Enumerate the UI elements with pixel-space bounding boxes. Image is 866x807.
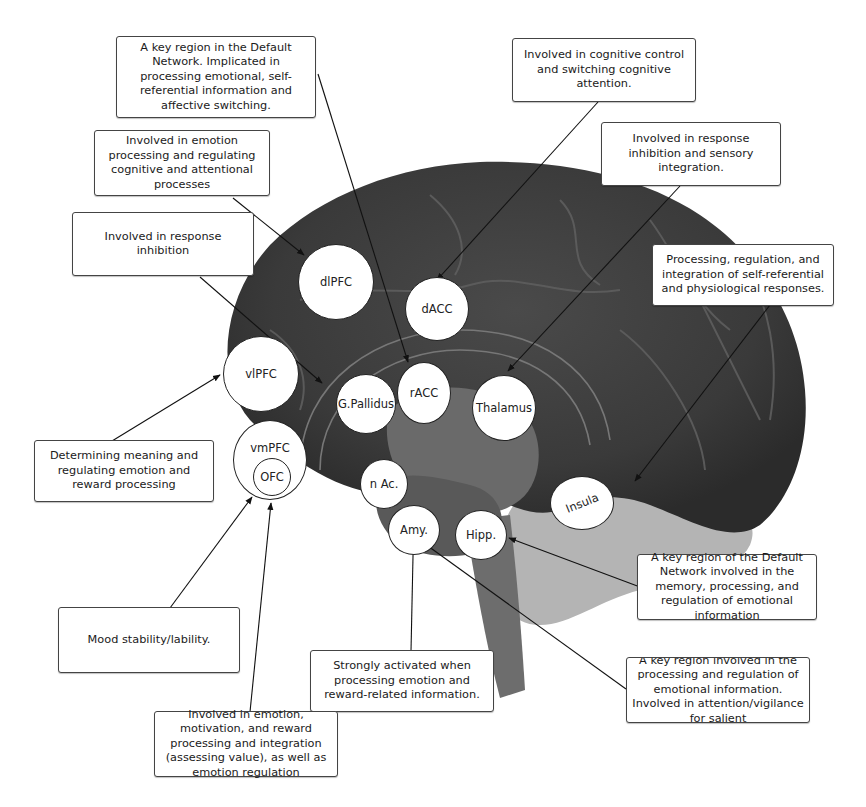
annotation-insula: Processing, regulation, and integration … <box>652 244 834 306</box>
region-dacc[interactable]: dACC <box>405 277 469 341</box>
annotation-text: A key region of the Default Network invo… <box>643 551 811 624</box>
region-label: dlPFC <box>320 275 352 289</box>
annotation-text: Determining meaning and regulating emoti… <box>40 449 208 493</box>
region-label: rACC <box>410 386 438 400</box>
annotation-text: Involved in response inhibition and sens… <box>607 132 775 176</box>
region-label: vmPFC <box>250 441 290 455</box>
region-label: vlPFC <box>245 367 277 381</box>
annotation-racc: A key region in the Default Network. Imp… <box>116 36 316 118</box>
annotation-nac: Strongly activated when processing emoti… <box>310 650 494 712</box>
region-label: n Ac. <box>370 477 399 491</box>
annotation-text: A key region involved in the processing … <box>632 657 804 723</box>
region-ofc[interactable]: OFC <box>253 458 291 496</box>
annotation-text: Mood stability/lability. <box>88 633 211 648</box>
annotation-thalamus: Involved in response inhibition and sens… <box>601 122 781 186</box>
region-nac[interactable]: n Ac. <box>360 459 408 509</box>
region-vlpfc[interactable]: vlPFC <box>223 336 299 412</box>
region-label: dACC <box>421 302 452 316</box>
annotation-gpallidus: Involved in response inhibition <box>72 212 254 276</box>
region-dlpfc[interactable]: dlPFC <box>298 244 374 320</box>
region-amy[interactable]: Amy. <box>388 505 440 555</box>
annotation-amy: A key region involved in the processing … <box>626 657 810 723</box>
region-label: G.Pallidus <box>338 397 394 411</box>
region-thalamus[interactable]: Thalamus <box>472 375 536 441</box>
annotation-dlpfc: Involved in emotion processing and regul… <box>94 130 270 196</box>
region-label: Amy. <box>400 523 428 537</box>
annotation-dacc: Involved in cognitive control and switch… <box>512 38 696 102</box>
annotation-text: A key region in the Default Network. Imp… <box>122 41 310 114</box>
brain-diagram: dlPFC dACC vlPFC G.Pallidus rACC Thalamu… <box>0 0 866 807</box>
annotation-ofc: Involved in emotion, motivation, and rew… <box>154 711 338 777</box>
region-label: Hipp. <box>466 528 496 542</box>
annotation-vmpfc: Mood stability/lability. <box>58 607 240 673</box>
annotation-text: Strongly activated when processing emoti… <box>316 659 488 703</box>
region-racc[interactable]: rACC <box>397 362 451 424</box>
region-label: Thalamus <box>476 401 532 415</box>
annotation-text: Involved in emotion, motivation, and rew… <box>160 708 332 781</box>
region-label: Insula <box>564 490 601 516</box>
region-insula[interactable]: Insula <box>550 476 614 530</box>
annotation-text: Involved in response inhibition <box>78 230 248 259</box>
annotation-vlpfc: Determining meaning and regulating emoti… <box>34 440 214 502</box>
region-gpallidus[interactable]: G.Pallidus <box>336 374 396 434</box>
annotation-text: Involved in emotion processing and regul… <box>100 134 264 192</box>
annotation-text: Involved in cognitive control and switch… <box>518 48 690 92</box>
region-label: OFC <box>260 470 284 484</box>
annotation-text: Processing, regulation, and integration … <box>658 253 828 297</box>
annotation-hipp: A key region of the Default Network invo… <box>637 554 817 620</box>
region-hipp[interactable]: Hipp. <box>455 510 507 560</box>
